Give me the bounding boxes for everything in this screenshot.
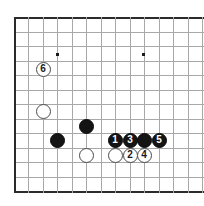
grid-line-vertical-4 bbox=[72, 17, 73, 193]
grid-line-vertical-7 bbox=[115, 17, 116, 193]
grid-line-vertical-3 bbox=[57, 17, 58, 193]
stone-move-number: 3 bbox=[127, 135, 133, 145]
grid-line-vertical-10 bbox=[159, 17, 160, 193]
stone-move-number: 4 bbox=[141, 150, 147, 160]
stone-move-number: 2 bbox=[127, 150, 133, 160]
star-point-left bbox=[56, 53, 59, 56]
stone-move-3[interactable]: 3 bbox=[123, 133, 138, 148]
stone-move-number: 6 bbox=[40, 64, 46, 74]
stone-black-center[interactable] bbox=[79, 119, 94, 134]
stone-white-left[interactable] bbox=[36, 104, 51, 119]
stone-move-1[interactable]: 1 bbox=[108, 133, 123, 148]
stone-black-left[interactable] bbox=[50, 133, 65, 148]
stone-white-center[interactable] bbox=[79, 148, 94, 163]
stone-move-4[interactable]: 4 bbox=[137, 148, 152, 163]
grid-line-vertical-9 bbox=[144, 17, 145, 193]
stone-move-number: 5 bbox=[156, 135, 162, 145]
stone-move-number: 1 bbox=[112, 135, 118, 145]
stone-move-6[interactable]: 6 bbox=[36, 62, 51, 77]
stone-black-plain-right[interactable] bbox=[137, 133, 152, 148]
go-board-diagram: 613524 bbox=[0, 0, 204, 206]
grid-line-vertical-8 bbox=[130, 17, 131, 193]
stone-move-2[interactable]: 2 bbox=[123, 148, 138, 163]
stone-white-plain-right[interactable] bbox=[108, 148, 123, 163]
grid-line-vertical-1 bbox=[28, 17, 29, 193]
grid-line-vertical-5 bbox=[86, 17, 87, 193]
grid-line-vertical-12 bbox=[188, 17, 189, 193]
grid-line-vertical-13 bbox=[202, 17, 203, 193]
grid-line-vertical-11 bbox=[173, 17, 174, 193]
grid-line-vertical-0 bbox=[14, 17, 16, 193]
grid-line-vertical-6 bbox=[101, 17, 102, 193]
star-point-right bbox=[142, 53, 145, 56]
board-grid bbox=[0, 0, 204, 206]
stone-move-5[interactable]: 5 bbox=[152, 133, 167, 148]
